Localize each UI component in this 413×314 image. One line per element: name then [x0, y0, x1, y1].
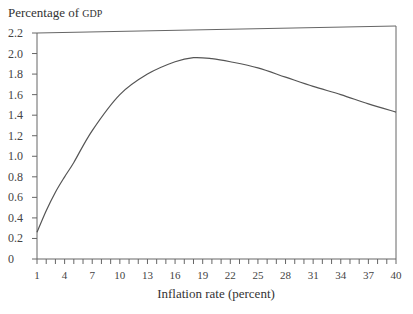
y-axis: 00.20.40.60.81.01.21.41.61.82.02.2 — [8, 26, 37, 266]
y-tick-label: 1.4 — [8, 108, 23, 122]
x-tick-label: 4 — [62, 269, 68, 281]
y-tick-label: 0.2 — [8, 231, 23, 245]
y-tick-label: 1.2 — [8, 129, 23, 143]
x-tick-label: 19 — [197, 269, 209, 281]
x-tick-label: 40 — [391, 269, 403, 281]
y-tick-label: 1.0 — [8, 149, 23, 163]
y-tick-label: 0 — [8, 252, 14, 266]
x-tick-label: 31 — [308, 269, 319, 281]
x-tick-label: 28 — [280, 269, 292, 281]
x-tick-label: 25 — [252, 269, 264, 281]
x-axis-title: Inflation rate (percent) — [157, 286, 275, 301]
y-tick-label: 0.6 — [8, 190, 23, 204]
y-tick-label: 1.6 — [8, 88, 23, 102]
data-line — [37, 57, 396, 232]
y-axis-title: Percentage of GDP — [8, 5, 103, 20]
y-tick-label: 0.4 — [8, 211, 23, 225]
x-tick-label: 10 — [114, 269, 126, 281]
x-tick-label: 37 — [363, 269, 375, 281]
y-tick-label: 2.2 — [8, 26, 23, 40]
x-tick-label: 13 — [142, 269, 154, 281]
plot-frame — [37, 26, 396, 259]
line-chart: Percentage of GDP 00.20.40.60.81.01.21.4… — [0, 0, 413, 314]
x-axis: 1471013161922252831343740 — [34, 259, 402, 281]
x-tick-label: 16 — [170, 269, 182, 281]
y-tick-label: 1.8 — [8, 67, 23, 81]
y-tick-label: 0.8 — [8, 170, 23, 184]
x-tick-label: 22 — [225, 269, 236, 281]
x-tick-label: 7 — [89, 269, 95, 281]
y-tick-label: 2.0 — [8, 47, 23, 61]
x-tick-label: 1 — [34, 269, 40, 281]
x-tick-label: 34 — [335, 269, 347, 281]
